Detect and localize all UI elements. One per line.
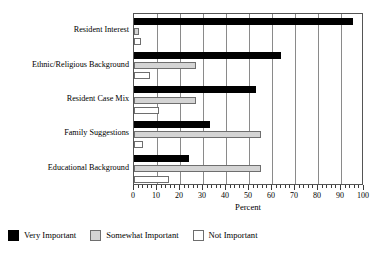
y-axis-label: Resident Case Mix: [0, 95, 129, 103]
gridline: [295, 14, 296, 184]
x-tick-label: 100: [351, 192, 375, 200]
x-tick-major: [294, 185, 295, 190]
x-tick-minor: [138, 185, 139, 188]
x-tick-minor: [142, 185, 143, 188]
x-tick-minor: [253, 185, 254, 188]
x-tick-minor: [280, 185, 281, 188]
bar: [134, 72, 150, 79]
black-square-icon: [8, 230, 19, 241]
x-tick-label: 40: [213, 192, 237, 200]
x-tick-minor: [331, 185, 332, 188]
legend-item-not-important: Not Important: [193, 230, 258, 241]
x-tick-minor: [216, 185, 217, 188]
legend: Very Important Somewhat Important Not Im…: [8, 228, 272, 242]
x-tick-label: 50: [236, 192, 260, 200]
x-tick-minor: [262, 185, 263, 188]
x-tick-minor: [165, 185, 166, 188]
x-tick-minor: [345, 185, 346, 188]
bar: [134, 52, 281, 59]
x-tick-minor: [170, 185, 171, 188]
y-axis-label: Resident Interest: [0, 26, 129, 34]
bar: [134, 97, 196, 104]
x-tick-label: 30: [190, 192, 214, 200]
bar: [134, 141, 143, 148]
x-tick-minor: [354, 185, 355, 188]
y-axis-label: Educational Background: [0, 164, 129, 172]
x-tick-label: 10: [144, 192, 168, 200]
x-tick-major: [225, 185, 226, 190]
x-tick-minor: [299, 185, 300, 188]
x-tick-minor: [207, 185, 208, 188]
x-tick-minor: [326, 185, 327, 188]
x-tick-minor: [193, 185, 194, 188]
bar: [134, 28, 139, 35]
x-tick-minor: [266, 185, 267, 188]
bar: [134, 18, 353, 25]
x-tick-label: 0: [121, 192, 145, 200]
x-tick-major: [340, 185, 341, 190]
x-tick-minor: [289, 185, 290, 188]
gridline: [341, 14, 342, 184]
x-tick-minor: [335, 185, 336, 188]
x-tick-minor: [285, 185, 286, 188]
bar-chart: Resident InterestEthnic/Religious Backgr…: [0, 0, 378, 258]
gridline: [226, 14, 227, 184]
legend-item-somewhat-important: Somewhat Important: [90, 230, 178, 241]
y-axis-label: Family Suggestions: [0, 129, 129, 137]
x-tick-minor: [161, 185, 162, 188]
legend-label: Very Important: [24, 231, 76, 240]
x-tick-minor: [257, 185, 258, 188]
legend-label: Somewhat Important: [106, 231, 178, 240]
x-tick-minor: [308, 185, 309, 188]
bar: [134, 155, 189, 162]
x-tick-minor: [197, 185, 198, 188]
x-tick-major: [271, 185, 272, 190]
x-tick-minor: [234, 185, 235, 188]
bar: [134, 107, 159, 114]
x-tick-minor: [349, 185, 350, 188]
gridline: [272, 14, 273, 184]
x-tick-minor: [322, 185, 323, 188]
legend-item-very-important: Very Important: [8, 230, 76, 241]
bar: [134, 121, 210, 128]
bar: [134, 176, 169, 183]
x-tick-label: 60: [259, 192, 283, 200]
x-tick-label: 70: [282, 192, 306, 200]
plot-area: [133, 13, 363, 185]
x-tick-major: [248, 185, 249, 190]
x-tick-major: [363, 185, 364, 190]
x-tick-minor: [151, 185, 152, 188]
bar: [134, 38, 141, 45]
x-tick-label: 90: [328, 192, 352, 200]
y-axis-label: Ethnic/Religious Background: [0, 61, 129, 69]
bar: [134, 165, 261, 172]
x-tick-minor: [239, 185, 240, 188]
x-axis-title: Percent: [133, 203, 363, 212]
gridline: [203, 14, 204, 184]
gray-square-icon: [90, 230, 101, 241]
x-tick-label: 80: [305, 192, 329, 200]
x-tick-minor: [276, 185, 277, 188]
x-tick-major: [156, 185, 157, 190]
x-tick-major: [179, 185, 180, 190]
gridline: [318, 14, 319, 184]
gridline: [249, 14, 250, 184]
x-tick-minor: [174, 185, 175, 188]
x-tick-minor: [220, 185, 221, 188]
bar: [134, 62, 196, 69]
x-tick-major: [317, 185, 318, 190]
x-tick-major: [202, 185, 203, 190]
legend-label: Not Important: [209, 231, 258, 240]
bar: [134, 86, 256, 93]
x-tick-label: 20: [167, 192, 191, 200]
x-tick-minor: [243, 185, 244, 188]
x-tick-minor: [230, 185, 231, 188]
x-tick-minor: [147, 185, 148, 188]
x-tick-minor: [211, 185, 212, 188]
white-square-icon: [193, 230, 204, 241]
x-tick-minor: [188, 185, 189, 188]
x-tick-minor: [184, 185, 185, 188]
x-tick-minor: [358, 185, 359, 188]
x-tick-minor: [303, 185, 304, 188]
bar: [134, 131, 261, 138]
